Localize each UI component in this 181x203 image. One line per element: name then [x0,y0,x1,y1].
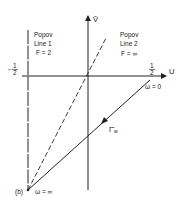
popov-line-1-subtitle: Line 1 [34,40,52,47]
v-axis-label: V̂ [93,15,98,24]
locus-direction-arrow-icon [101,117,108,124]
u-axis-label: U [169,67,174,76]
right-tick-num: 1 [150,62,154,69]
locus-label-subscript: w [114,128,118,134]
popov-line-1-param: F = 2 [36,49,51,56]
omega-infinity-label: ω = ∞ [35,188,52,195]
popov-plot-diagram: V̂ U − 1 2 1 2 Popov Line 1 F = 2 Popov … [0,0,181,203]
locus-curve [28,80,150,190]
left-tick-num: 1 [13,62,17,69]
omega-zero-label: ω = 0 [145,83,161,90]
popov-line-2 [28,38,106,190]
left-tick-sign: − [8,66,12,73]
right-tick-den: 2 [150,69,154,76]
popov-line-2-param: F = ∞ [121,50,137,57]
panel-label: (b) [15,188,23,196]
popov-line-1-title: Popov [34,31,53,39]
popov-line-2-subtitle: Line 2 [120,40,138,47]
omega-infinity-point [27,189,30,192]
left-tick-den: 2 [13,69,17,76]
popov-line-2-title: Popov [120,31,139,39]
